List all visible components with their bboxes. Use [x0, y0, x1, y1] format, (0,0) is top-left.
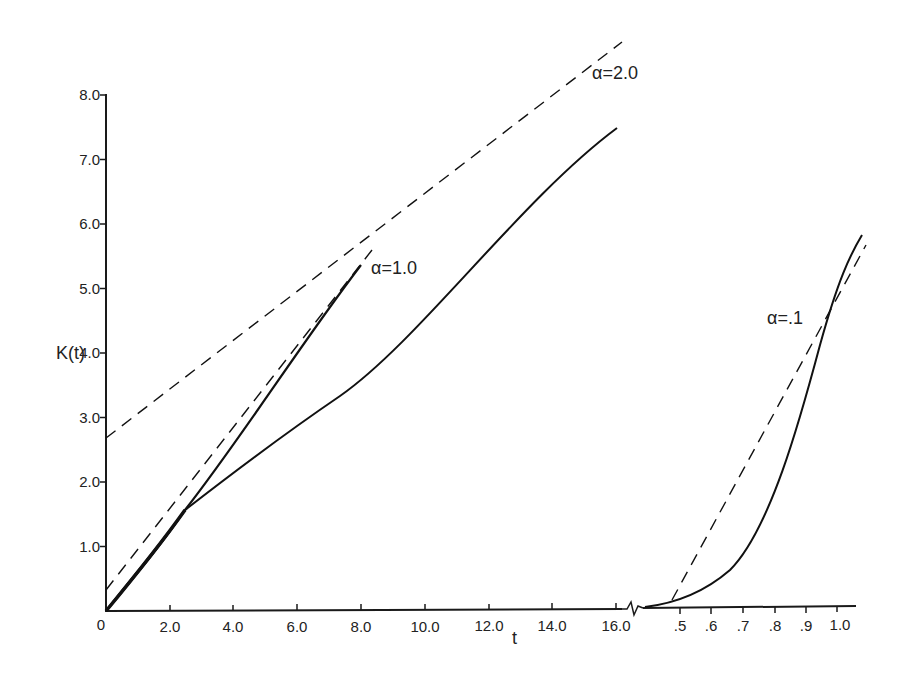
alpha-01-curve — [645, 235, 862, 607]
x-tick-labels-broken: .5 .6 .7 .8 .9 1.0 — [674, 616, 851, 634]
initial-overlap — [106, 510, 185, 611]
x-tick-label: .7 — [737, 617, 750, 634]
x-axis — [106, 609, 622, 611]
alpha-2-curve — [106, 128, 617, 611]
y-axis-title: K(t) — [56, 343, 85, 363]
x-tick-label: 0 — [97, 616, 105, 633]
y-tick-labels: 1.0 2.0 3.0 4.0 5.0 6.0 7.0 8.0 — [79, 86, 100, 555]
y-tick-label: 5.0 — [79, 280, 100, 297]
x-tick-label: .6 — [705, 617, 718, 634]
x-tick-label: 2.0 — [160, 618, 181, 635]
curves — [106, 42, 866, 611]
y-tick-label: 6.0 — [79, 215, 100, 232]
x-axis-broken-segment — [643, 606, 856, 608]
alpha-01-label: α=.1 — [767, 308, 803, 328]
axes — [106, 94, 856, 615]
axis-break-icon — [622, 602, 643, 615]
x-tick-label: 4.0 — [223, 618, 244, 635]
alpha-2-asymptote — [106, 42, 622, 438]
x-tick-label: .5 — [674, 617, 687, 634]
x-tick-label: .8 — [769, 617, 782, 634]
x-tick-label: 16.0 — [601, 617, 630, 634]
alpha-1-asymptote — [106, 250, 372, 590]
y-tick-label: 7.0 — [79, 151, 100, 168]
alpha-01-asymptote — [672, 245, 866, 600]
x-tick-label: 1.0 — [830, 616, 851, 633]
x-tick-label: 10.0 — [410, 618, 439, 635]
y-tick-label: 2.0 — [79, 473, 100, 490]
chart: 1.0 2.0 3.0 4.0 5.0 6.0 7.0 8.0 0 2.0 4.… — [0, 0, 912, 681]
y-tick-label: 3.0 — [79, 409, 100, 426]
alpha-1-label: α=1.0 — [371, 258, 417, 278]
x-tick-label: 8.0 — [351, 618, 372, 635]
y-tick-label: 1.0 — [79, 538, 100, 555]
x-tick-labels: 0 2.0 4.0 6.0 8.0 10.0 12.0 14.0 16.0 — [97, 616, 631, 635]
x-tick-label: 12.0 — [474, 617, 503, 634]
alpha-1-curve — [106, 265, 361, 611]
x-axis-title: t — [512, 628, 517, 648]
x-tick-label: .9 — [800, 617, 813, 634]
y-tick-label: 8.0 — [79, 86, 100, 103]
x-tick-label: 14.0 — [537, 617, 566, 634]
x-tick-label: 6.0 — [287, 618, 308, 635]
alpha-2-label: α=2.0 — [592, 63, 638, 83]
